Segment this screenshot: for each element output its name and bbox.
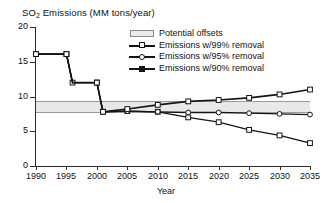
data-point-marker: [308, 87, 313, 92]
data-point-marker: [216, 120, 221, 125]
data-point-marker: [247, 127, 252, 132]
chart-figure: SO2 Emissions (MM tons/year) 05101520 19…: [0, 0, 332, 203]
data-point-marker: [277, 133, 282, 138]
data-point-marker: [186, 110, 191, 115]
data-point-marker: [125, 107, 130, 112]
legend-item-99-removal: Emissions w/99% removal: [128, 40, 264, 52]
data-point-marker: [186, 99, 191, 104]
data-point-marker: [155, 109, 160, 114]
legend-line-open-square-icon: [128, 40, 156, 51]
legend-label-potential-offsets: Potential offsets: [159, 28, 223, 40]
data-point-marker: [277, 111, 282, 116]
data-point-marker: [64, 52, 69, 57]
data-point-marker: [247, 95, 252, 100]
data-point-marker: [277, 92, 282, 97]
legend-item-potential-offsets: Potential offsets: [128, 28, 264, 40]
legend-label-95-removal: Emissions w/95% removal: [159, 51, 264, 63]
legend-label-90-removal: Emissions w/90% removal: [159, 63, 264, 75]
legend-line-open-circle-icon: [128, 51, 156, 62]
data-point-marker: [94, 80, 99, 85]
legend-label-99-removal: Emissions w/99% removal: [159, 40, 264, 52]
legend-swatch-band-icon: [128, 28, 156, 39]
legend-line-filled-icon: [128, 63, 156, 74]
data-point-marker: [216, 98, 221, 103]
chart-legend: Potential offsets Emissions w/99% remova…: [128, 28, 264, 74]
data-point-marker: [101, 109, 106, 114]
data-point-marker: [34, 52, 39, 57]
legend-item-95-removal: Emissions w/95% removal: [128, 51, 264, 63]
data-point-marker: [247, 111, 252, 116]
data-point-marker: [308, 112, 313, 117]
data-point-marker: [186, 115, 191, 120]
data-point-marker: [155, 102, 160, 107]
data-point-marker: [216, 110, 221, 115]
data-point-marker: [308, 141, 313, 146]
legend-item-90-removal: Emissions w/90% removal: [128, 63, 264, 75]
